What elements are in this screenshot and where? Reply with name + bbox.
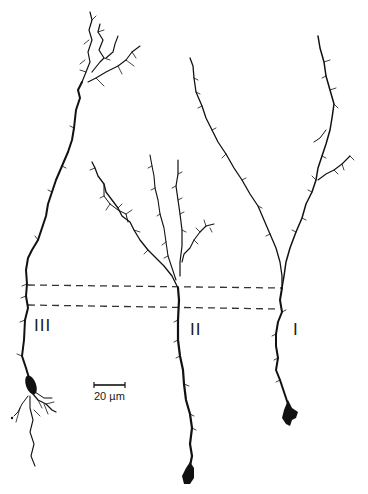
neuron-i-soma (282, 400, 298, 426)
neuron-drawing (0, 0, 368, 494)
lower-dashed-line (28, 305, 280, 309)
scale-bar-label: 20 µm (94, 390, 125, 402)
neuron-i-label: I (293, 320, 299, 340)
neuron-iii-label: III (34, 316, 51, 336)
neuron-figure: III II I 20 µm (0, 0, 368, 494)
reference-lines (28, 285, 282, 309)
neuron-ii-soma (182, 462, 194, 484)
neuron-i (190, 36, 354, 426)
scale-bar (94, 382, 125, 388)
neuron-ii-label: II (190, 320, 201, 340)
upper-dashed-line (28, 285, 282, 288)
